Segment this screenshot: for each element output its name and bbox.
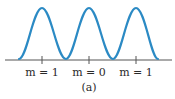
order-label: m = 0	[72, 66, 106, 79]
intensity-curve	[19, 8, 158, 59]
order-label: m = 1	[25, 66, 59, 79]
figure-caption: (a)	[81, 81, 96, 94]
order-label: m = 1	[119, 66, 153, 79]
intensity-diagram: m = 1 m = 0 m = 1 (a)	[0, 0, 175, 99]
